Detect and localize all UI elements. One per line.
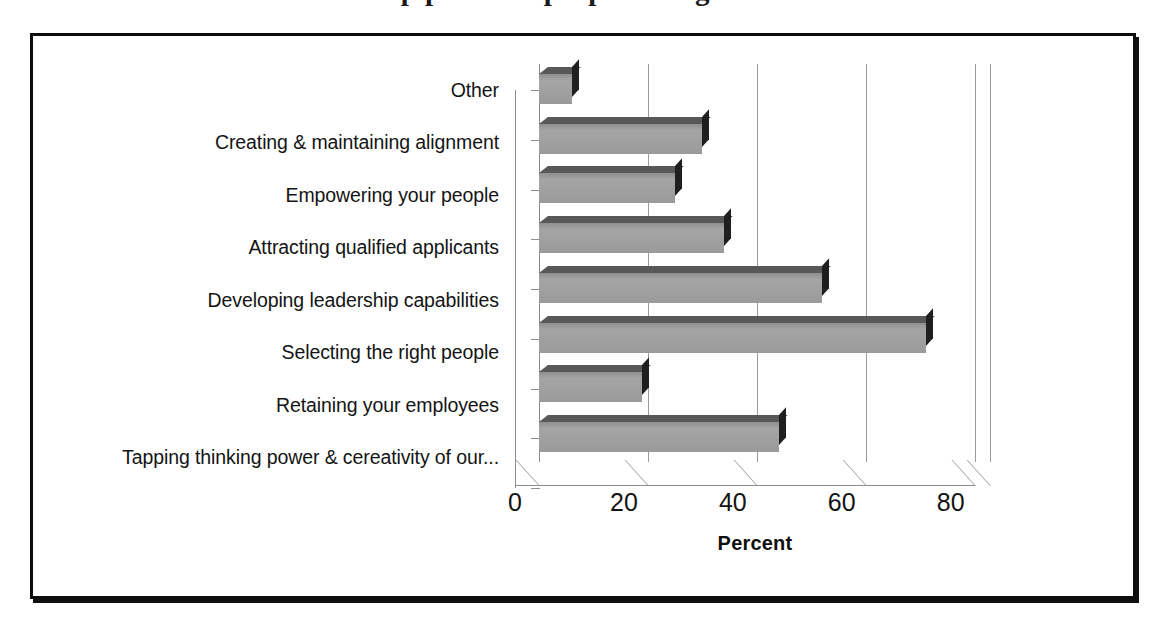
category-label: Developing leadership capabilities: [208, 289, 499, 312]
bar-row: [539, 164, 991, 214]
value-tick-label-40: 40: [719, 488, 747, 517]
category-label: Retaining your employees: [276, 394, 499, 417]
category-label-row: Attracting qualified applicants: [33, 222, 509, 275]
bar[interactable]: [539, 124, 702, 154]
category-label-row: Creating & maintaining alignment: [33, 117, 509, 170]
bar[interactable]: [539, 372, 642, 402]
category-label: Creating & maintaining alignment: [215, 131, 499, 154]
value-tick-label-20: 20: [610, 488, 638, 517]
plot-floor: [515, 462, 995, 488]
plot-area: [515, 64, 995, 484]
bar-row: [539, 412, 991, 462]
category-label-row: Selecting the right people: [33, 327, 509, 380]
bar-row: [539, 64, 991, 114]
value-tick-label-0: 0: [508, 488, 522, 517]
bar[interactable]: [539, 422, 779, 452]
category-label-row: Empowering your people: [33, 169, 509, 222]
bar-row: [539, 263, 991, 313]
floor-connector: [516, 460, 540, 486]
value-axis-line: [515, 485, 975, 486]
bar[interactable]: [539, 223, 724, 253]
x-axis-title: Percent: [515, 532, 995, 555]
category-label-row: Developing leadership capabilities: [33, 274, 509, 327]
category-label: Other: [451, 79, 499, 102]
category-label: Empowering your people: [285, 184, 499, 207]
category-axis-labels: OtherCreating & maintaining alignmentEmp…: [33, 64, 509, 484]
bar[interactable]: [539, 273, 822, 303]
floor-connector: [624, 460, 648, 486]
value-axis-tick-labels: 020406080: [515, 488, 995, 522]
category-label: Attracting qualified applicants: [248, 236, 499, 259]
value-tick-label-80: 80: [937, 488, 965, 517]
bar-series: [539, 64, 991, 462]
category-label: Tapping thinking power & cereativity of …: [122, 446, 499, 469]
floor-connector: [733, 460, 757, 486]
clipped-page-heading: the top power & people of organizations: [0, 0, 1168, 8]
floor-connector-edge: [967, 460, 991, 486]
category-axis-front-line: [515, 90, 516, 488]
category-label: Selecting the right people: [282, 341, 499, 364]
bar-row: [539, 114, 991, 164]
figure-frame: OtherCreating & maintaining alignmentEmp…: [30, 33, 1136, 599]
bar[interactable]: [539, 323, 926, 353]
category-label-row: Tapping thinking power & cereativity of …: [33, 432, 509, 485]
value-tick-label-60: 60: [828, 488, 856, 517]
bar-row: [539, 213, 991, 263]
category-label-row: Retaining your employees: [33, 379, 509, 432]
bar-row: [539, 313, 991, 363]
category-axis: [515, 64, 540, 488]
bar[interactable]: [539, 74, 572, 104]
floor-connector: [842, 460, 866, 486]
category-label-row: Other: [33, 64, 509, 117]
bar-row: [539, 363, 991, 413]
bar-chart: OtherCreating & maintaining alignmentEmp…: [33, 36, 1133, 596]
bar[interactable]: [539, 173, 675, 203]
plot-back-wall: [539, 64, 991, 462]
